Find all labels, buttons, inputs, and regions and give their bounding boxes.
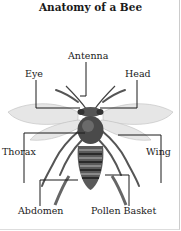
abdomen-shape — [78, 146, 104, 190]
label-wing: Wing — [146, 146, 171, 157]
pollen-basket-shape — [112, 176, 126, 205]
label-thorax: Thorax — [2, 146, 36, 157]
label-eye: Eye — [25, 68, 43, 79]
bee-illustration — [0, 0, 181, 231]
label-head: Head — [125, 68, 151, 79]
label-pollen-basket: Pollen Basket — [91, 205, 156, 216]
label-abdomen: Abdomen — [18, 205, 64, 216]
label-antenna: Antenna — [68, 50, 108, 61]
